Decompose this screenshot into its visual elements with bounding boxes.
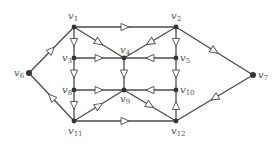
labels-layer: v1v2v3v4v5v6v7v8v9v10v11v12 bbox=[14, 10, 268, 138]
node-label-v6: v6 bbox=[14, 67, 25, 80]
node-label-v2: v2 bbox=[171, 10, 181, 23]
arrowhead-icon bbox=[94, 37, 105, 47]
arrowhead-icon bbox=[94, 100, 105, 110]
node-label-v5: v5 bbox=[180, 52, 190, 65]
node-v12 bbox=[174, 119, 179, 124]
node-v3 bbox=[72, 56, 77, 61]
arrowhead-icon bbox=[95, 86, 103, 93]
node-label-v1: v1 bbox=[68, 10, 78, 23]
node-v1 bbox=[72, 25, 77, 30]
arrowhead-icon bbox=[70, 39, 77, 47]
arrowhead-icon bbox=[146, 86, 154, 93]
arrowhead-icon bbox=[209, 46, 220, 56]
arrowhead-icon bbox=[70, 70, 77, 78]
edges-layer bbox=[29, 27, 253, 121]
directed-graph-diagram: v1v2v3v4v5v6v7v8v9v10v11v12 bbox=[0, 0, 278, 148]
arrowhead-icon bbox=[146, 54, 154, 61]
node-v2 bbox=[174, 25, 179, 30]
node-v11 bbox=[72, 119, 77, 124]
arrowhead-icon bbox=[145, 37, 156, 47]
node-label-v3: v3 bbox=[62, 52, 72, 65]
arrowhead-icon bbox=[172, 102, 179, 110]
arrowhead-icon bbox=[70, 102, 77, 110]
arrowhead-icon bbox=[145, 100, 156, 110]
node-v10 bbox=[174, 88, 179, 93]
arrowhead-icon bbox=[172, 70, 179, 78]
node-v8 bbox=[72, 88, 77, 93]
arrowhead-icon bbox=[209, 93, 220, 103]
node-label-v12: v12 bbox=[171, 125, 186, 138]
node-v7 bbox=[250, 72, 256, 78]
node-label-v7: v7 bbox=[258, 69, 268, 82]
node-v6 bbox=[26, 70, 32, 76]
node-label-v10: v10 bbox=[180, 84, 195, 97]
arrowhead-icon bbox=[121, 23, 129, 30]
arrowhead-icon bbox=[172, 39, 179, 47]
node-label-v8: v8 bbox=[62, 84, 72, 97]
node-label-v11: v11 bbox=[68, 125, 83, 138]
node-label-v4: v4 bbox=[120, 44, 131, 57]
arrowhead-icon bbox=[121, 117, 129, 124]
arrowhead-icon bbox=[95, 54, 103, 61]
node-v9 bbox=[122, 88, 127, 93]
node-label-v9: v9 bbox=[120, 93, 130, 106]
nodes-layer bbox=[26, 25, 256, 124]
arrowhead-icon bbox=[120, 70, 127, 78]
node-v5 bbox=[174, 56, 179, 61]
